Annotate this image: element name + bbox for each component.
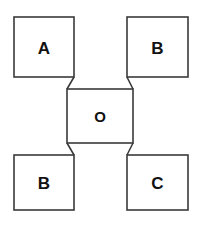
node-bottom-left-label: B <box>38 174 50 193</box>
connector-top-right-to-center <box>127 77 133 89</box>
node-bottom-right[interactable]: C <box>127 155 188 210</box>
node-center[interactable]: O <box>67 89 133 143</box>
connector-bottom-left-to-center <box>67 143 74 155</box>
connector-top-left-to-center <box>67 77 74 89</box>
node-top-left-label: A <box>38 39 50 58</box>
diagram-canvas: A B O B C <box>0 0 202 228</box>
connector-bottom-right-to-center <box>127 143 133 155</box>
node-diagram: A B O B C <box>0 0 202 228</box>
node-top-right-label: B <box>151 39 163 58</box>
node-bottom-left[interactable]: B <box>14 155 74 210</box>
node-bottom-right-label: C <box>151 174 163 193</box>
node-top-left[interactable]: A <box>14 17 74 77</box>
node-center-label: O <box>94 108 106 125</box>
node-top-right[interactable]: B <box>127 17 188 77</box>
